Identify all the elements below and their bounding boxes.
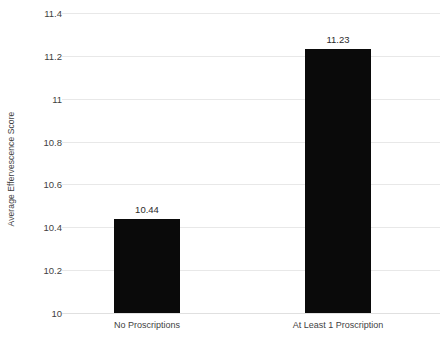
- y-axis-tick-label: 11: [24, 93, 62, 104]
- gridline: [62, 99, 440, 100]
- y-axis-title: Average Effervescence Score: [0, 0, 22, 338]
- gridline: [62, 13, 440, 14]
- y-axis-tick-label: 10.2: [24, 265, 62, 276]
- gridline: [62, 56, 440, 57]
- y-axis-tick-label: 10.4: [24, 222, 62, 233]
- bar-value-label: 11.23: [326, 34, 349, 45]
- bar: [114, 219, 180, 313]
- x-axis-category-label: At Least 1 Proscription: [293, 320, 384, 330]
- bar-value-label: 10.44: [135, 204, 159, 215]
- gridline: [62, 184, 440, 185]
- gridline: [62, 313, 440, 314]
- y-axis-tick-label: 10.8: [24, 136, 62, 147]
- gridline: [62, 142, 440, 143]
- y-axis-tick-label: 11.2: [24, 50, 62, 61]
- y-axis-tick-label: 10: [24, 308, 62, 319]
- bar: [305, 49, 371, 313]
- x-axis-category-label: No Proscriptions: [114, 320, 180, 330]
- y-axis-tick-label: 10.6: [24, 179, 62, 190]
- y-axis-tick-label: 11.4: [24, 8, 62, 19]
- bar-chart: Average Effervescence Score 11.411.21110…: [0, 0, 445, 338]
- plot-area: 10.4411.23: [62, 0, 440, 338]
